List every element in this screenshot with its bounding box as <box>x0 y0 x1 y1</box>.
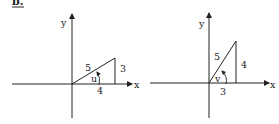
right-y-label: y <box>198 18 205 29</box>
right-figure: y x 5 4 3 v <box>150 13 276 118</box>
left-angle-arc <box>97 72 100 85</box>
problem-label: b. <box>12 0 24 8</box>
right-x-label: x <box>270 79 276 90</box>
left-x-label: x <box>134 79 140 90</box>
right-triangle <box>209 41 236 83</box>
right-angle-label: v <box>214 73 221 84</box>
left-adjacent-label: 4 <box>97 85 103 96</box>
left-hypotenuse-label: 5 <box>85 62 91 73</box>
left-angle-label: u <box>91 73 97 84</box>
diagram-canvas: b. y x 5 3 4 u y x 5 4 3 v <box>0 0 279 124</box>
left-y-label: y <box>60 17 67 28</box>
right-opposite-label: 4 <box>241 59 247 70</box>
left-opposite-label: 3 <box>120 63 126 74</box>
right-hypotenuse-label: 5 <box>214 51 220 62</box>
left-figure: y x 5 3 4 u <box>12 14 140 118</box>
right-adjacent-label: 3 <box>220 86 226 97</box>
right-angle-arc <box>222 71 227 84</box>
